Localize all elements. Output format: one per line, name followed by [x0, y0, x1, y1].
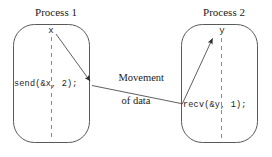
- recv-call-label: recv(&y, 1);: [183, 101, 247, 110]
- message-passing-diagram: Process 1 Process 2 x y send(&x, 2); rec…: [0, 0, 272, 157]
- data-movement-annotation: Movement of data: [108, 60, 164, 131]
- process-2-title: Process 2: [203, 7, 245, 18]
- data-movement-line-2: of data: [108, 95, 164, 107]
- process-1-title: Process 1: [35, 7, 77, 18]
- variable-y-label: y: [219, 27, 224, 36]
- data-movement-line-1: Movement: [119, 72, 165, 83]
- send-call-label: send(&x, 2);: [14, 80, 78, 89]
- send-arrow: [56, 34, 90, 81]
- process-2-boundary: [182, 25, 258, 143]
- recv-arrow: [182, 39, 213, 105]
- variable-x-label: x: [48, 27, 53, 36]
